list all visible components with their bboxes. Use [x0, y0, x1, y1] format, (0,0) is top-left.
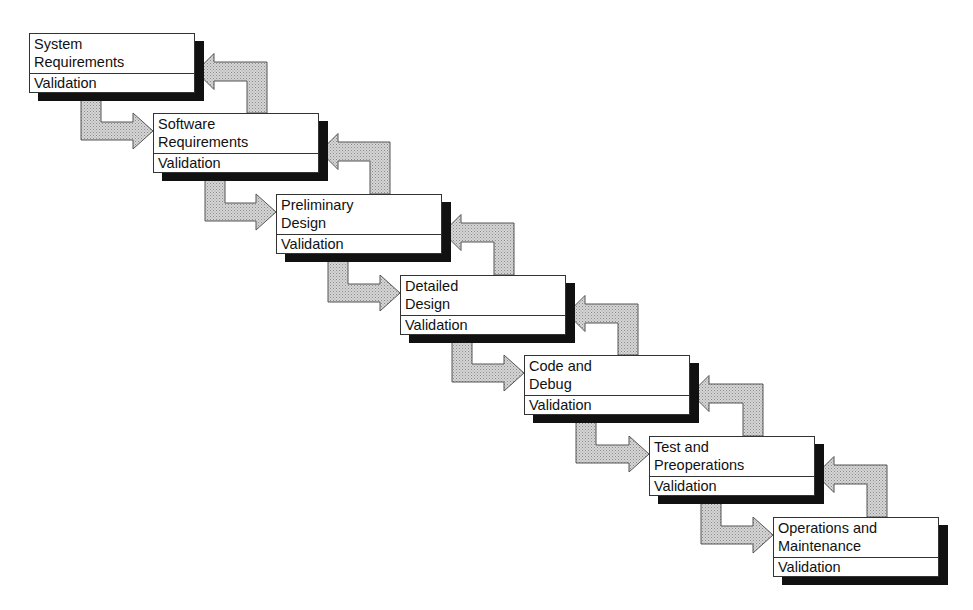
forward-arrow-icon — [452, 335, 524, 391]
stage-card: Test and Preoperations Validation — [649, 436, 815, 496]
stage-box-6: Test and Preoperations Validation — [649, 436, 815, 496]
stage-card: System Requirements Validation — [29, 33, 195, 93]
stage-validation-label: Validation — [529, 396, 592, 414]
stage-title: Test and Preoperations — [654, 438, 810, 476]
feedback-arrow-icon — [691, 376, 763, 437]
stage-validation-label: Validation — [778, 558, 841, 576]
stage-validation-label: Validation — [34, 74, 97, 92]
forward-arrow-icon — [576, 415, 649, 472]
stage-title: Code and Debug — [529, 357, 685, 395]
stage-title: Software Requirements — [158, 115, 314, 153]
stage-title: Operations and Maintenance — [778, 519, 934, 557]
stage-card: Code and Debug Validation — [524, 355, 690, 415]
feedback-arrow-icon — [816, 457, 887, 518]
stage-card: Detailed Design Validation — [400, 275, 566, 335]
stage-box-7: Operations and Maintenance Validation — [773, 517, 939, 577]
feedback-arrow-icon — [567, 296, 638, 356]
stage-box-3: Preliminary Design Validation — [276, 194, 442, 254]
forward-arrow-icon — [205, 173, 276, 230]
stage-card: Software Requirements Validation — [153, 113, 319, 173]
stage-box-4: Detailed Design Validation — [400, 275, 566, 335]
stage-validation-label: Validation — [405, 316, 468, 334]
forward-arrow-icon — [701, 496, 773, 553]
stage-box-1: System Requirements Validation — [29, 33, 195, 93]
stage-validation-label: Validation — [281, 235, 344, 253]
feedback-arrow-icon — [320, 134, 390, 195]
stage-title: Detailed Design — [405, 277, 561, 315]
feedback-arrow-icon — [196, 54, 267, 114]
stage-box-2: Software Requirements Validation — [153, 113, 319, 173]
forward-arrow-icon — [81, 93, 153, 149]
stage-validation-label: Validation — [654, 477, 717, 495]
forward-arrow-icon — [328, 254, 400, 311]
feedback-arrow-icon — [443, 215, 514, 276]
stage-card: Preliminary Design Validation — [276, 194, 442, 254]
stage-box-5: Code and Debug Validation — [524, 355, 690, 415]
stage-card: Operations and Maintenance Validation — [773, 517, 939, 577]
stage-title: System Requirements — [34, 35, 190, 73]
stage-title: Preliminary Design — [281, 196, 437, 234]
stage-validation-label: Validation — [158, 154, 221, 172]
waterfall-diagram: System Requirements Validation Software … — [0, 0, 973, 610]
